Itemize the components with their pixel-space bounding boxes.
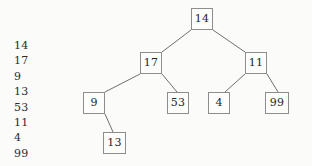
- tree-node-label: 17: [144, 57, 158, 68]
- tree-node-label: 99: [270, 97, 284, 108]
- sequence-item: 13: [14, 84, 58, 99]
- sequence-item: 14: [14, 38, 58, 53]
- sequence-item: 99: [14, 146, 58, 161]
- tree-node: 14: [191, 8, 213, 30]
- sequence-item: 53: [14, 100, 58, 115]
- tree-edge: [105, 114, 113, 132]
- tree-edge: [105, 74, 140, 92]
- tree-node-label: 13: [107, 137, 121, 148]
- tree-node: 17: [140, 52, 162, 74]
- insertion-sequence-list: 14179135311499: [14, 38, 58, 161]
- tree-edge: [225, 74, 245, 92]
- tree-node-label: 4: [215, 97, 222, 108]
- tree-node: 11: [245, 52, 267, 74]
- sequence-item: 9: [14, 69, 58, 84]
- tree-node: 13: [103, 132, 126, 154]
- tree-node-label: 11: [249, 57, 263, 68]
- sequence-item: 4: [14, 130, 58, 145]
- tree-node-label: 9: [90, 97, 97, 108]
- tree-edge: [162, 30, 191, 52]
- binary-tree-diagram: 14179135311499 14171195349913: [0, 0, 312, 166]
- tree-node: 4: [208, 92, 230, 114]
- sequence-item: 11: [14, 115, 58, 130]
- tree-node: 53: [167, 92, 189, 114]
- tree-node-label: 14: [195, 13, 209, 24]
- tree-edge: [162, 74, 177, 92]
- tree-node: 99: [265, 92, 289, 114]
- tree-node-label: 53: [171, 97, 185, 108]
- tree-edge: [267, 74, 278, 92]
- tree-edge: [213, 30, 245, 52]
- sequence-item: 17: [14, 53, 58, 68]
- tree-node: 9: [83, 92, 105, 114]
